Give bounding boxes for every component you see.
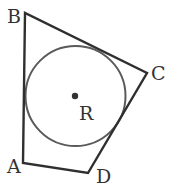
geometry-diagram: B C A D R bbox=[0, 0, 179, 192]
label-b: B bbox=[7, 5, 21, 27]
quadrilateral-abcd bbox=[23, 13, 147, 173]
label-d: D bbox=[96, 165, 111, 187]
label-a: A bbox=[6, 155, 21, 177]
label-c: C bbox=[151, 62, 166, 84]
label-r: R bbox=[79, 102, 94, 124]
center-point-r bbox=[72, 93, 78, 99]
